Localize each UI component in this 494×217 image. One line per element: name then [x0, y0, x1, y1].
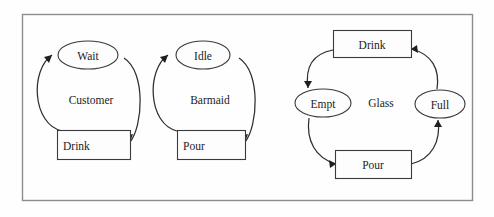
cluster-barmaid-label: Barmaid	[190, 94, 230, 106]
edge-glass-full-to-drink	[411, 49, 438, 89]
state-diagram-figure: Wait Drink Customer Idle Pour Barmaid	[0, 0, 494, 217]
cluster-customer: Wait Drink Customer	[37, 41, 140, 160]
arrowhead-glass-pour-to-full	[434, 120, 442, 127]
node-barmaid-idle-label: Idle	[194, 50, 212, 62]
node-glass-drink-label: Drink	[359, 39, 386, 51]
node-customer-wait-label: Wait	[77, 50, 99, 62]
edge-barmaid-pour-to-idle	[153, 55, 177, 131]
cluster-barmaid: Idle Pour Barmaid	[153, 41, 255, 160]
node-glass-empt-label: Empt	[311, 98, 337, 111]
edge-customer-drink-to-wait	[37, 55, 62, 131]
node-customer-drink-label: Drink	[63, 140, 90, 152]
cluster-glass: Drink Empt Pour Full Glass	[295, 31, 465, 179]
node-glass-pour-label: Pour	[362, 159, 384, 171]
edge-barmaid-idle-to-pour	[239, 58, 255, 142]
edge-customer-wait-to-drink	[124, 58, 140, 142]
cluster-glass-label: Glass	[368, 97, 394, 109]
cluster-customer-label: Customer	[69, 94, 114, 106]
arrowhead-glass-drink-to-empt	[304, 81, 312, 88]
node-barmaid-pour-label: Pour	[183, 140, 205, 152]
edge-glass-empt-to-pour	[308, 118, 336, 164]
node-glass-full-label: Full	[431, 99, 450, 111]
